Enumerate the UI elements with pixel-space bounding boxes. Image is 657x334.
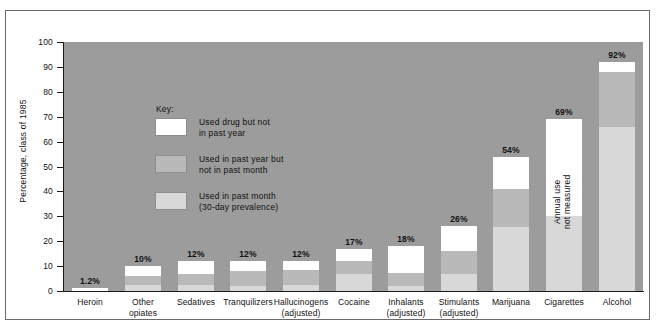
x-axis-line	[63, 291, 644, 292]
x-axis-label-line: Alcohol	[583, 297, 651, 308]
y-axis-label: Percentage, class of 1985	[18, 71, 28, 231]
bar-value-label: 1.2%	[58, 276, 122, 286]
bar-segment	[230, 286, 266, 291]
y-axis-tick-label: 60	[31, 138, 53, 146]
legend-label-line: Used in past month	[199, 191, 278, 202]
x-axis-category-label: Alcohol	[583, 297, 651, 308]
legend-swatch	[155, 155, 187, 173]
y-axis-tick-label: 100	[31, 38, 53, 46]
y-axis-tick-label: 80	[31, 88, 53, 96]
bar-segment	[388, 286, 424, 291]
y-axis-tick-label: 50	[31, 163, 53, 171]
bar[interactable]	[441, 226, 477, 291]
legend-swatch	[155, 192, 187, 210]
y-axis-tick	[57, 92, 64, 93]
legend-swatch	[155, 118, 187, 136]
bar-segment	[336, 249, 372, 261]
y-axis-tick	[57, 216, 64, 217]
bar-segment	[283, 261, 319, 269]
bar[interactable]	[388, 246, 424, 291]
bar-segment	[125, 266, 161, 276]
legend-items: Used drug but notin past yearUsed in pas…	[155, 118, 330, 222]
legend-label-line: Used drug but not	[199, 117, 270, 128]
bar-value-label: 54%	[479, 145, 543, 155]
bar-value-label: 92%	[585, 50, 649, 60]
legend-item: Used in past year butnot in past month	[155, 155, 330, 185]
bar-segment	[599, 72, 635, 127]
bar[interactable]	[493, 157, 529, 291]
legend-label: Used drug but notin past year	[199, 117, 270, 138]
bar[interactable]	[178, 261, 214, 291]
y-axis-tick-label: 0	[31, 287, 53, 295]
bar-value-label: 12%	[269, 249, 333, 259]
bar-segment	[125, 285, 161, 291]
x-axis-label-line: (adjusted)	[267, 308, 335, 319]
bar-segment	[178, 261, 214, 273]
bar-segment	[336, 274, 372, 291]
y-axis-tick	[57, 291, 64, 292]
legend-item: Used drug but notin past year	[155, 118, 330, 148]
figure: Percentage, class of 1985 01020304050607…	[0, 0, 657, 334]
y-axis-tick-label: 70	[31, 113, 53, 121]
legend-label-line: in past year	[199, 128, 270, 139]
x-axis-label-line: (adjusted)	[425, 308, 493, 319]
y-axis-tick	[57, 167, 64, 168]
bar[interactable]	[599, 62, 635, 291]
bar-segment	[125, 276, 161, 285]
bar-segment	[178, 274, 214, 285]
bar-segment	[493, 189, 529, 227]
plot-area: 1.2%10%12%12%12%17%18%26%54%69%Annual us…	[64, 42, 643, 291]
bar-segment	[599, 127, 635, 291]
bar[interactable]	[230, 261, 266, 291]
y-axis-tick-label: 30	[31, 212, 53, 220]
bar-segment	[72, 288, 108, 291]
bar[interactable]	[125, 266, 161, 291]
bar-segment	[493, 227, 529, 291]
y-axis-tick	[57, 42, 64, 43]
bar-value-label: 26%	[427, 214, 491, 224]
x-axis-label-line: opiates	[109, 308, 177, 319]
bar-segment	[230, 261, 266, 271]
y-axis-tick-label: 20	[31, 237, 53, 245]
y-axis-tick	[57, 67, 64, 68]
y-axis-tick	[57, 266, 64, 267]
y-axis-tick-label: 40	[31, 187, 53, 195]
bar[interactable]	[336, 249, 372, 291]
y-axis-tick	[57, 241, 64, 242]
legend-label-line: not in past month	[199, 165, 284, 176]
legend-label-line: (30-day prevalence)	[199, 202, 278, 213]
bar-annotation: Annual use not measured	[552, 159, 576, 245]
bar-segment	[178, 285, 214, 291]
legend-title: Key:	[156, 104, 330, 114]
bar-segment	[493, 157, 529, 189]
legend-label: Used in past month(30-day prevalence)	[199, 191, 278, 212]
bar[interactable]	[283, 261, 319, 291]
bar-segment	[336, 261, 372, 274]
legend-label-line: Used in past year but	[199, 154, 284, 165]
y-axis-tick	[57, 191, 64, 192]
bar-segment	[441, 274, 477, 291]
y-axis-tick	[57, 142, 64, 143]
legend-label: Used in past year butnot in past month	[199, 154, 284, 175]
y-axis-tick	[57, 117, 64, 118]
bar-segment	[283, 285, 319, 291]
bar-segment	[388, 246, 424, 272]
bar[interactable]	[72, 288, 108, 291]
y-axis-tick-label: 90	[31, 63, 53, 71]
bar-segment	[388, 273, 424, 286]
legend: Key: Used drug but notin past yearUsed i…	[155, 104, 330, 229]
bar-segment	[599, 62, 635, 72]
bar-segment	[283, 270, 319, 285]
bar-value-label: 69%	[532, 107, 596, 117]
bar-value-label: 18%	[374, 234, 438, 244]
legend-item: Used in past month(30-day prevalence)	[155, 192, 330, 222]
bar-segment	[230, 271, 266, 286]
figure-frame: Percentage, class of 1985 01020304050607…	[5, 10, 650, 320]
y-axis-tick-label: 10	[31, 262, 53, 270]
bar-segment	[441, 226, 477, 251]
bar-segment	[441, 251, 477, 274]
